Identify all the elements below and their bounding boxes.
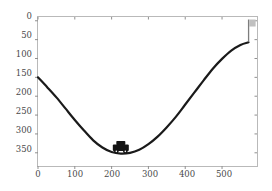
xtick-label-300: 300 [135,170,165,179]
mountain-car-figure: d t th t i ll t i th lid ith t d th l 0 … [0,0,272,191]
xtick-label-0: 0 [23,170,53,179]
ytick-label-0: 0 [4,12,32,21]
xtick-label-200: 200 [97,170,127,179]
bottom-caption-text [30,183,272,191]
xtick-label-400: 400 [172,170,202,179]
ytick-label-50: 50 [4,31,32,40]
ytick-label-250: 250 [4,107,32,116]
ytick-label-100: 100 [4,50,32,59]
ytick-label-150: 150 [4,69,32,78]
ytick-label-300: 300 [4,126,32,135]
xtick-label-500: 500 [209,170,239,179]
ytick-label-350: 350 [4,145,32,154]
top-caption-text: d t th t i ll t i th lid ith t d th l [4,0,268,4]
xtick-label-100: 100 [60,170,90,179]
plot-frame [37,16,258,167]
ytick-label-200: 200 [4,88,32,97]
